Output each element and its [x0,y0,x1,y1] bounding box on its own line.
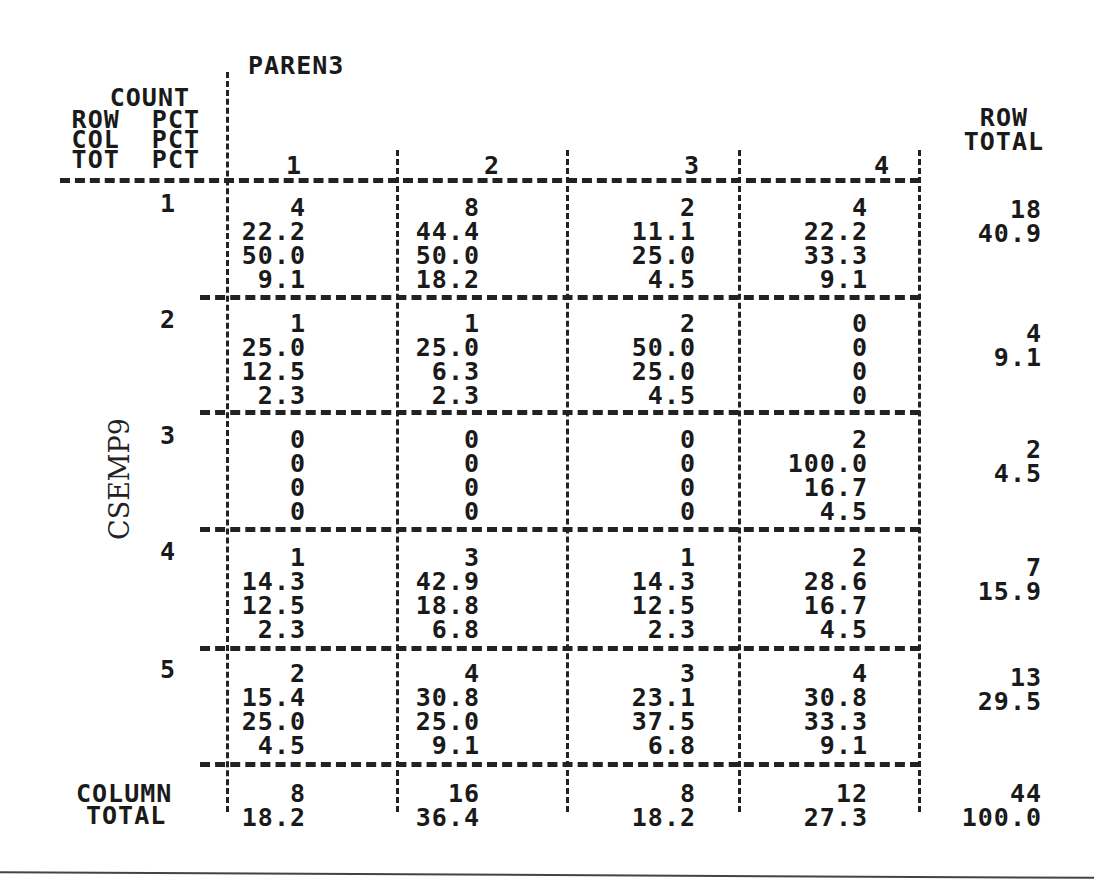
cell-tot-pct: 9.1 [738,268,868,292]
cell-r1-c3: 2 11.1 25.0 4.5 [566,196,696,292]
grid-hline-row3 [200,527,920,532]
row-label-2: 2 [160,308,176,332]
cell-col-pct: 0 [350,476,480,500]
cell-r4-c3: 1 14.3 12.5 2.3 [566,546,696,642]
row-total-r1: 18 40.9 [912,198,1042,246]
cell-r3-c4: 2 100.0 16.7 4.5 [738,428,868,524]
page-bottom-rule [0,871,1094,879]
row-total-r2: 4 9.1 [912,322,1042,370]
cell-tot-pct: 2.3 [350,384,480,408]
row-variable-label: CSEMP9 [104,418,135,540]
cell-tot-pct: 0 [566,500,696,524]
cell-r1-c2: 8 44.4 50.0 18.2 [350,196,480,292]
cell-r5-c1: 2 15.4 25.0 4.5 [176,662,306,758]
column-total-c3: 8 18.2 [566,782,696,830]
cell-r5-c4: 4 30.8 33.3 9.1 [738,662,868,758]
cell-tot-pct: 0 [350,500,480,524]
cell-tot-pct: 4.5 [176,734,306,758]
cell-r2-c3: 2 50.0 25.0 4.5 [566,312,696,408]
cell-tot-pct: 9.1 [350,734,480,758]
cell-tot-pct: 4.5 [566,384,696,408]
cell-tot-pct: 2.3 [176,618,306,642]
cell-tot-pct: 9.1 [176,268,306,292]
row-total-pct: 40.9 [912,222,1042,246]
grid-hline-row1 [200,295,920,300]
row-total-pct: 4.5 [912,462,1042,486]
cell-tot-pct: 0 [738,384,868,408]
column-header-2: 2 [400,154,500,178]
cell-r1-c1: 4 22.2 50.0 9.1 [176,196,306,292]
column-total-pct: 18.2 [566,806,696,830]
row-total-pct: 9.1 [912,346,1042,370]
row-total-pct: 29.5 [912,690,1042,714]
cell-tot-pct: 6.8 [350,618,480,642]
column-total-c4: 12 27.3 [738,782,868,830]
column-total-c2: 16 36.4 [350,782,480,830]
cell-r5-c3: 3 23.1 37.5 6.8 [566,662,696,758]
row-total-r4: 7 15.9 [912,556,1042,604]
cell-col-pct: 0 [176,476,306,500]
cell-tot-pct: 18.2 [350,268,480,292]
cell-count: 0 [738,312,868,336]
row-label-1: 1 [160,192,176,216]
cell-r3-c2: 0 0 0 0 [350,428,480,524]
cell-r4-c2: 3 42.9 18.8 6.8 [350,546,480,642]
cell-tot-pct: 2.3 [176,384,306,408]
column-header-1: 1 [220,154,302,178]
cell-tot-pct: 4.5 [738,618,868,642]
column-total-pct: 36.4 [350,806,480,830]
column-total-label-line2: TOTAL [86,804,166,828]
cell-r2-c4: 0 0 0 0 [738,312,868,408]
cell-col-pct: 0 [566,476,696,500]
column-header-4: 4 [790,154,890,178]
cell-tot-pct: 4.5 [566,268,696,292]
cell-row-pct: 0 [176,452,306,476]
legend-tot-pct: TOT PCT [60,148,200,172]
cell-tot-pct: 6.8 [566,734,696,758]
column-total-pct: 18.2 [176,806,306,830]
cell-count: 0 [176,428,306,452]
row-total-r5: 13 29.5 [912,666,1042,714]
grid-hline-header [60,178,920,183]
grand-total: 44 100.0 [912,782,1042,830]
cell-r1-c4: 4 22.2 33.3 9.1 [738,196,868,292]
grid-hline-row4 [200,646,920,651]
row-total-pct: 15.9 [912,580,1042,604]
cell-r3-c3: 0 0 0 0 [566,428,696,524]
row-label-3: 3 [160,424,176,448]
cell-row-pct: 0 [350,452,480,476]
grid-hline-bottom [200,762,920,767]
cell-col-pct: 0 [738,360,868,384]
cell-r2-c2: 1 25.0 6.3 2.3 [350,312,480,408]
row-label-4: 4 [160,540,176,564]
cell-count: 0 [566,428,696,452]
cell-r4-c1: 1 14.3 12.5 2.3 [176,546,306,642]
cell-r2-c1: 1 25.0 12.5 2.3 [176,312,306,408]
row-total-header-line2: TOTAL [940,130,1044,154]
cell-tot-pct: 2.3 [566,618,696,642]
cell-r3-c1: 0 0 0 0 [176,428,306,524]
column-total-pct: 27.3 [738,806,868,830]
cell-tot-pct: 4.5 [738,500,868,524]
cell-row-pct: 0 [738,336,868,360]
cell-row-pct: 0 [566,452,696,476]
cell-r4-c4: 2 28.6 16.7 4.5 [738,546,868,642]
cell-count: 0 [350,428,480,452]
column-total-c1: 8 18.2 [176,782,306,830]
grid-hline-row2 [200,410,920,415]
cell-tot-pct: 0 [176,500,306,524]
grand-total-pct: 100.0 [912,806,1042,830]
row-label-5: 5 [160,658,176,682]
column-header-3: 3 [600,154,700,178]
cell-r5-c2: 4 30.8 25.0 9.1 [350,662,480,758]
row-total-r3: 2 4.5 [912,438,1042,486]
column-variable-label: PAREN3 [248,54,344,78]
cell-tot-pct: 9.1 [738,734,868,758]
